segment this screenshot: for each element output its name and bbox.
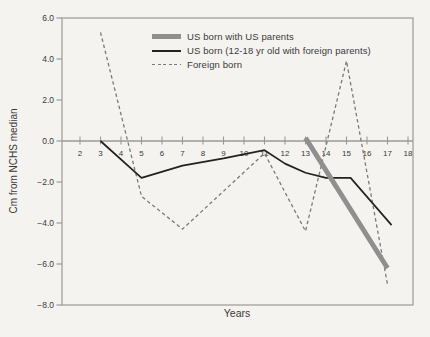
series-line-dashed	[101, 32, 388, 284]
y-tick-label: −2.0	[37, 177, 54, 187]
x-tick-label: 12	[281, 149, 290, 158]
legend-label: US born with US parents	[187, 31, 294, 42]
legend-label: US born (12-18 yr old with foreign paren…	[187, 45, 371, 56]
x-tick-label: 13	[301, 149, 310, 158]
y-tick-label: −6.0	[37, 259, 54, 269]
solid-black-line-swatch	[152, 50, 181, 52]
legend-item-foreign-born: Foreign born	[152, 59, 371, 70]
y-tick-label: 4.0	[42, 54, 54, 64]
thick-gray-line-swatch	[152, 34, 181, 39]
y-axis-label: Cm from NCHS median	[8, 108, 19, 213]
legend-label: Foreign born	[187, 59, 242, 70]
dashed-gray-line-swatch	[152, 64, 181, 66]
x-tick-label: 9	[221, 149, 226, 158]
growth-deficit-chart-figure: 6.04.02.00.0−2.0−4.0−6.0−8.0234567891011…	[0, 0, 430, 337]
y-tick-label: 0.0	[42, 136, 54, 146]
legend-item-us-born-foreign-parents: US born (12-18 yr old with foreign paren…	[152, 45, 371, 56]
x-tick-label: 2	[78, 149, 83, 158]
x-tick-label: 5	[139, 149, 144, 158]
x-tick-label: 4	[119, 149, 124, 158]
x-tick-label: 8	[201, 149, 206, 158]
y-tick-label: −4.0	[37, 218, 54, 228]
x-tick-label: 6	[160, 149, 165, 158]
x-tick-label: 7	[180, 149, 185, 158]
y-tick-label: 2.0	[42, 95, 54, 105]
legend-item-us-born-us-parents: US born with US parents	[152, 31, 371, 42]
x-tick-label: 17	[383, 149, 392, 158]
y-tick-label: 6.0	[42, 13, 54, 23]
x-tick-label: 15	[342, 149, 351, 158]
chart-legend: US born with US parents US born (12-18 y…	[152, 31, 371, 70]
x-axis-label: Years	[224, 307, 250, 319]
y-tick-label: −8.0	[37, 300, 54, 310]
x-tick-label: 3	[98, 149, 103, 158]
x-tick-label: 18	[404, 149, 413, 158]
